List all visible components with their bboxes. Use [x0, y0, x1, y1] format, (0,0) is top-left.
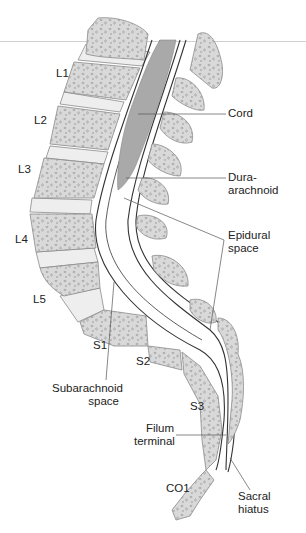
vertebra-l4 — [30, 214, 96, 252]
callout-filum-line2: terminal — [134, 435, 174, 448]
spinous-process-l4 — [138, 178, 169, 205]
callout-dura-arachnoid: Dura- arachnoid — [228, 171, 279, 197]
label-s2: S2 — [136, 355, 150, 368]
callout-filum-terminal: Filum terminal — [134, 422, 174, 448]
callout-subarachnoid-line1: Subarachnoid — [52, 382, 119, 395]
callout-subarachnoid-line2: space — [52, 395, 119, 408]
sacral-crest-1 — [190, 299, 216, 323]
callout-dura-line2: arachnoid — [228, 184, 279, 197]
label-l3: L3 — [18, 163, 31, 176]
callout-sacral-line2: hiatus — [238, 503, 271, 516]
spinous-process-l3 — [148, 144, 181, 176]
spinous-process-l1 — [172, 78, 204, 110]
callout-epidural-line2: space — [228, 242, 270, 255]
spinous-process-l2 — [160, 112, 193, 143]
callout-sacral-hiatus: Sacral hiatus — [238, 490, 271, 516]
vertebra-s2 — [148, 346, 182, 370]
vertebra-t12 — [86, 18, 148, 60]
label-l4: L4 — [15, 233, 28, 246]
label-l5: L5 — [33, 293, 46, 306]
callout-sacral-line1: Sacral — [238, 490, 271, 503]
label-s1: S1 — [93, 339, 107, 352]
vertebra-l2 — [50, 106, 120, 150]
leader-sacral — [230, 458, 250, 490]
spine-diagram — [0, 0, 306, 533]
label-l2: L2 — [34, 114, 47, 127]
leader-epidural-2 — [210, 240, 224, 330]
spinous-process-t12 — [190, 33, 223, 88]
callout-subarachnoid-space: Subarachnoid space — [52, 382, 119, 408]
callout-epidural-space: Epidural space — [228, 229, 270, 255]
callout-epidural-line1: Epidural — [228, 229, 270, 242]
spinous-process-s1 — [152, 255, 188, 286]
spinous-process-l5 — [136, 215, 167, 239]
coccyx — [172, 470, 214, 520]
callout-cord-text: Cord — [228, 107, 253, 119]
label-s3: S3 — [190, 400, 204, 413]
vertebra-l3 — [34, 158, 104, 198]
callout-filum-line1: Filum — [134, 422, 174, 435]
callout-dura-line1: Dura- — [228, 171, 279, 184]
label-l1: L1 — [56, 67, 69, 80]
label-co1: CO1 — [166, 482, 190, 495]
callout-cord: Cord — [228, 107, 253, 120]
